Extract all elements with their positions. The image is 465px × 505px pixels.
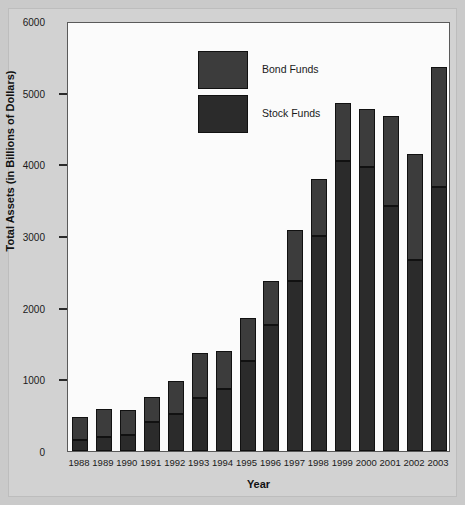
y-tick-label: 3000 <box>23 232 45 243</box>
bar-segment-bond[interactable] <box>240 318 256 361</box>
x-axis-title: Year <box>67 478 450 490</box>
bar-segment-stock[interactable] <box>431 187 447 451</box>
bar-segment-bond[interactable] <box>287 230 303 282</box>
y-tick-label: 2000 <box>23 303 45 314</box>
bar-group[interactable] <box>263 21 279 451</box>
x-tick-label: 2003 <box>423 457 453 468</box>
bar-segment-stock[interactable] <box>335 161 351 451</box>
bars-layer <box>68 23 449 451</box>
stock-funds-swatch <box>198 95 248 133</box>
bar-segment-bond[interactable] <box>216 351 232 389</box>
bar-segment-bond[interactable] <box>168 381 184 414</box>
legend-label-stock: Stock Funds <box>262 107 320 119</box>
bond-funds-swatch <box>198 51 248 89</box>
bar-group[interactable] <box>311 21 327 451</box>
bar-segment-bond[interactable] <box>192 353 208 398</box>
bar-group[interactable] <box>287 21 303 451</box>
bar-segment-stock[interactable] <box>192 398 208 451</box>
bar-segment-bond[interactable] <box>407 154 423 259</box>
y-tick-mark <box>59 164 67 166</box>
y-tick-label: 0 <box>39 447 45 458</box>
bar-segment-bond[interactable] <box>335 103 351 161</box>
y-tick-label: 1000 <box>23 375 45 386</box>
y-axis-title: Total Assets (in Billions of Dollars) <box>4 1 16 321</box>
bar-segment-bond[interactable] <box>263 281 279 325</box>
legend-label-bond: Bond Funds <box>262 63 319 75</box>
bar-group[interactable] <box>383 21 399 451</box>
bar-segment-stock[interactable] <box>383 206 399 451</box>
bar-segment-stock[interactable] <box>287 281 303 451</box>
plot-area: Bond Funds Stock Funds <box>67 22 450 452</box>
bar-group[interactable] <box>407 21 423 451</box>
bar-segment-stock[interactable] <box>216 389 232 451</box>
bar-segment-stock[interactable] <box>168 414 184 451</box>
bar-segment-stock[interactable] <box>120 435 136 451</box>
bar-group[interactable] <box>72 21 88 451</box>
bar-segment-bond[interactable] <box>383 116 399 206</box>
y-tick-mark <box>59 93 67 95</box>
y-tick-mark <box>59 308 67 310</box>
bar-group[interactable] <box>144 21 160 451</box>
bar-segment-bond[interactable] <box>72 417 88 441</box>
bar-segment-bond[interactable] <box>144 397 160 423</box>
bar-group[interactable] <box>335 21 351 451</box>
bar-group[interactable] <box>168 21 184 451</box>
y-tick-mark <box>59 379 67 381</box>
bar-segment-stock[interactable] <box>144 422 160 451</box>
chart-figure: 0100020003000400050006000 Total Assets (… <box>0 0 465 505</box>
y-tick-label: 6000 <box>23 17 45 28</box>
bar-segment-bond[interactable] <box>311 179 327 236</box>
bar-segment-stock[interactable] <box>72 440 88 451</box>
bar-group[interactable] <box>96 21 112 451</box>
bar-segment-stock[interactable] <box>311 236 327 451</box>
bar-group[interactable] <box>431 21 447 451</box>
bar-segment-stock[interactable] <box>263 325 279 451</box>
bar-segment-stock[interactable] <box>359 167 375 451</box>
bar-segment-stock[interactable] <box>96 437 112 451</box>
bar-segment-stock[interactable] <box>240 361 256 451</box>
y-tick-mark <box>59 236 67 238</box>
bar-group[interactable] <box>359 21 375 451</box>
bar-segment-stock[interactable] <box>407 260 423 451</box>
bar-segment-bond[interactable] <box>359 109 375 167</box>
y-tick-label: 4000 <box>23 160 45 171</box>
y-tick-label: 5000 <box>23 88 45 99</box>
bar-segment-bond[interactable] <box>120 410 136 434</box>
bar-group[interactable] <box>120 21 136 451</box>
bar-segment-bond[interactable] <box>431 67 447 187</box>
bar-segment-bond[interactable] <box>96 409 112 436</box>
